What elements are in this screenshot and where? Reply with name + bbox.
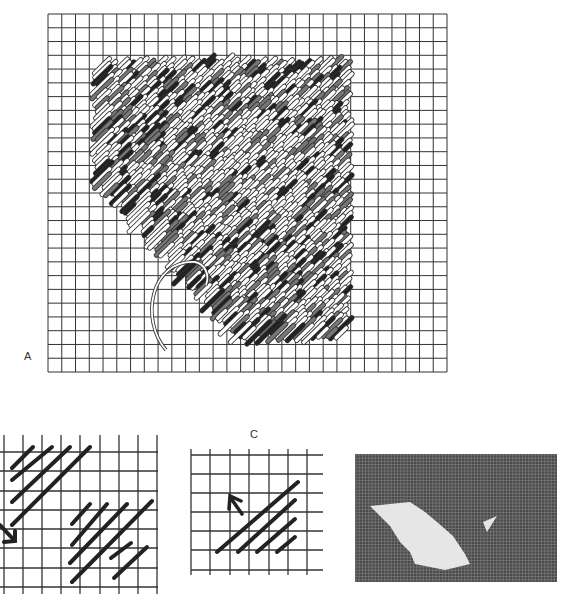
figure-c-grid: [185, 445, 325, 585]
figure-d-photo: [355, 454, 557, 582]
figure-b-grid: [0, 405, 165, 594]
canvas-photo: [355, 454, 557, 582]
figure-c-label: C: [250, 428, 258, 440]
figure-a: [0, 0, 460, 380]
figure-b: [0, 405, 165, 594]
figure-a-grid: [0, 0, 460, 380]
figure-a-label: A: [24, 350, 31, 362]
figure-c: [185, 445, 325, 585]
